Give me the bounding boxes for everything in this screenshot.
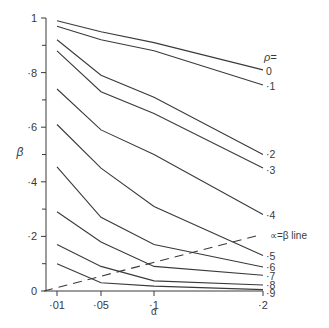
- y-axis-label: β: [16, 145, 24, 159]
- series-label-rho-1: ·1: [266, 80, 275, 92]
- series-label-rho-2: ·2: [266, 148, 275, 160]
- series-label-rho-4: ·4: [266, 209, 275, 221]
- y-tick-label: ·6: [27, 121, 37, 133]
- reference-line-label: ∝=β line: [270, 230, 307, 241]
- series-group: [57, 21, 263, 290]
- y-tick-label: 1: [31, 12, 37, 24]
- series-label-rho-9: ·9: [266, 287, 275, 299]
- series-line-rho-2: [57, 40, 263, 155]
- x-tick-label: ·2: [258, 299, 268, 311]
- series-line-rho-3: [57, 51, 263, 168]
- axes: 0·2·4·6·81·01·05·1·2αβ: [16, 12, 268, 317]
- y-tick-label: ·4: [27, 176, 37, 188]
- y-tick-label: ·8: [27, 67, 37, 79]
- x-tick-label: ·01: [49, 299, 65, 311]
- series-label-rho-0: 0: [266, 65, 272, 77]
- series-line-rho-8: [57, 245, 263, 285]
- y-tick-label: ·2: [27, 230, 37, 242]
- chart-container: 0·2·4·6·81·01·05·1·2αβ ∝=β line 0·1·2·3·…: [0, 0, 329, 328]
- line-chart: 0·2·4·6·81·01·05·1·2αβ ∝=β line 0·1·2·3·…: [0, 0, 329, 328]
- legend-title: ρ=: [263, 51, 277, 63]
- series-line-rho-1: [57, 26, 263, 85]
- x-tick-label: ·05: [93, 299, 109, 311]
- series-line-rho-9: [57, 264, 263, 290]
- series-line-rho-6: [57, 167, 263, 267]
- x-axis-label: α: [151, 306, 157, 317]
- series-labels: 0·1·2·3·4·5·6·7·8·9ρ=: [263, 51, 277, 299]
- series-line-rho-5: [57, 125, 263, 256]
- series-line-rho-7: [57, 212, 263, 275]
- series-line-rho-4: [57, 89, 263, 215]
- series-line-rho-0: [57, 21, 263, 70]
- y-tick-label: 0: [31, 285, 37, 297]
- reference-dashed-line: [44, 235, 258, 291]
- series-label-rho-3: ·3: [266, 164, 275, 176]
